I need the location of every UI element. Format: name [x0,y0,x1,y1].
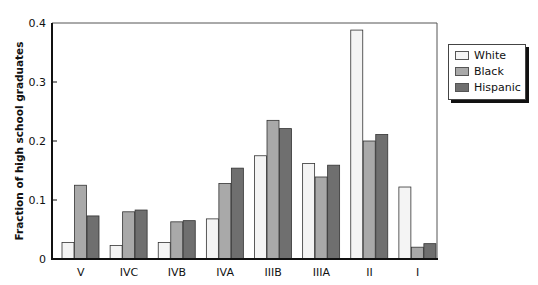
x-category-label: IIIA [313,266,331,279]
bars [52,23,438,260]
x-category-label: IVB [168,266,186,279]
bar-white-iiib [255,156,267,259]
y-tick-label: 0.2 [29,135,47,148]
bar-black-iiib [267,120,279,259]
bar-hispanic-ivb [183,221,195,259]
bar-white-i [399,187,411,259]
bar-black-iva [219,183,231,259]
x-category-label: I [416,266,419,279]
hispanic-swatch [455,83,469,92]
bar-black-ivb [171,222,183,259]
legend-label: White [474,49,506,62]
legend-item-white: White [455,47,525,63]
y-tick-label: 0.4 [29,17,47,30]
bar-hispanic-ivc [135,210,147,259]
bar-hispanic-iiia [328,165,340,259]
bar-hispanic-iva [231,168,243,259]
bar-black-i [411,247,423,259]
y-tick-label: 0.1 [29,194,47,207]
y-tick-label: 0.3 [29,76,47,89]
white-swatch [455,51,469,60]
bar-hispanic-iiib [280,129,292,259]
legend-label: Black [474,65,504,78]
bar-white-ivc [110,245,122,259]
legend-item-hispanic: Hispanic [455,79,525,95]
bar-black-ii [363,141,375,259]
legend-label: Hispanic [474,81,521,94]
x-category-label: IVA [216,266,234,279]
bar-hispanic-v [87,216,99,259]
x-category-label: V [77,266,85,279]
black-swatch [455,67,469,76]
y-axis-label: Fraction of high school graduates [13,42,25,241]
x-category-label: II [366,266,373,279]
legend-item-black: Black [455,63,525,79]
bar-chart: 00.10.20.30.4VIVCIVBIVAIIIBIIIAIII Fract… [0,0,538,285]
x-category-label: IIIB [265,266,282,279]
bar-white-v [62,242,74,259]
bar-black-iiia [315,177,327,259]
bar-hispanic-i [424,244,436,259]
x-category-label: IVC [120,266,139,279]
bar-black-v [75,185,87,259]
bar-black-ivc [123,212,135,259]
bar-hispanic-ii [376,135,388,259]
y-tick-label: 0 [39,253,46,266]
bar-white-iva [206,219,218,259]
legend: White Black Hispanic [448,44,526,100]
bar-white-ii [351,30,363,259]
bar-white-ivb [158,242,170,259]
bar-white-iiia [303,163,315,259]
